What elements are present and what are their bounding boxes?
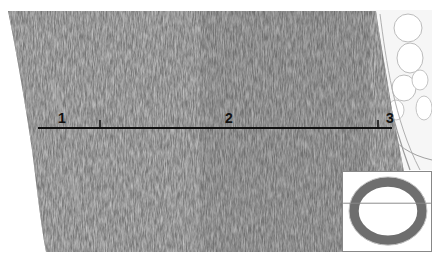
layer-label-2: 2 xyxy=(225,111,233,125)
layer-label-3: 3 xyxy=(386,111,394,125)
vessel-ring-overview xyxy=(343,172,431,251)
micrograph: 1 2 3 xyxy=(0,0,432,261)
overview-inset xyxy=(342,171,432,252)
layer-label-1: 1 xyxy=(58,111,66,125)
